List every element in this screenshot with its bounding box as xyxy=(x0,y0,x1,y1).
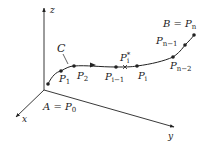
label-a-equals-p0: A = P0 xyxy=(42,101,76,114)
x-axis xyxy=(16,90,44,117)
diagram-canvas: z x y C P1 P2 Pi−1 P* i Pi Pn−2 Pn−1 B =… xyxy=(0,0,203,149)
x-axis-label: x xyxy=(22,114,27,124)
z-axis-label: z xyxy=(49,5,55,15)
direction-arrow-icon xyxy=(90,63,96,68)
curve-diagram: z x y C P1 P2 Pi−1 P* i Pi Pn−2 Pn−1 B =… xyxy=(0,0,203,149)
label-p-i-minus-1: Pi−1 xyxy=(104,71,124,84)
point-p-n-minus-1 xyxy=(183,43,187,47)
label-p-n-minus-1: Pn−1 xyxy=(155,35,178,48)
point-p-i xyxy=(135,64,139,68)
y-axis-label: y xyxy=(167,131,174,141)
point-p2 xyxy=(72,64,76,68)
curve-label-leader xyxy=(63,54,68,64)
point-a xyxy=(46,82,50,86)
point-b xyxy=(192,33,196,37)
point-p-i-minus-1 xyxy=(114,65,118,69)
label-p1: P1 xyxy=(58,73,70,86)
label-p-i: Pi xyxy=(137,70,148,83)
curve-label: C xyxy=(57,42,66,55)
point-p-n-minus-2 xyxy=(171,55,175,59)
label-p-n-minus-2: Pn−2 xyxy=(169,60,192,73)
label-b-equals-pn: B = Pn xyxy=(162,18,197,31)
label-p2: P2 xyxy=(76,70,88,83)
